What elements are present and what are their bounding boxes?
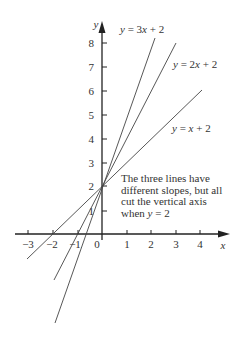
label-y-x-plus-2: y = x + 2 [171, 122, 211, 134]
y-tick-label: 4 [89, 133, 95, 145]
note-line: when y = 2 [121, 208, 244, 220]
y-axis-label: y [93, 18, 99, 30]
x-tick-label: −3 [22, 238, 34, 250]
y-tick-label: 2 [89, 180, 95, 192]
label-y-2x-plus-2: y = 2x + 2 [172, 58, 217, 70]
line-y-2x-plus-2 [54, 43, 176, 280]
x-axis-arrow-icon [218, 231, 230, 238]
label-y-3x-plus-2: y = 3x + 2 [119, 23, 164, 35]
annotation-note: The three lines have different slopes, b… [121, 173, 244, 219]
y-tick-label: 6 [89, 85, 95, 97]
y-tick-label: 5 [89, 109, 95, 121]
y-tick-label: 3 [89, 157, 95, 169]
x-tick-label: 4 [197, 238, 203, 250]
x-tick-label: 1 [124, 238, 130, 250]
x-tick-label: 3 [173, 238, 179, 250]
y-axis-arrow-icon [99, 21, 106, 33]
x-tick-label: 0 [94, 238, 100, 250]
x-tick-label: 2 [148, 238, 154, 250]
x-tick-label: −2 [46, 238, 58, 250]
y-tick-label: 7 [89, 61, 95, 73]
x-axis-label: x [220, 239, 226, 251]
note-line: The three lines have [121, 173, 244, 185]
y-tick-label: 8 [89, 37, 95, 49]
